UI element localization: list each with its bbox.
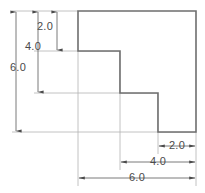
dimension-label-h4: 4.0 (150, 155, 166, 167)
dimension-label-v2: 2.0 (37, 20, 53, 32)
vertical-dimension-6: 6.0 (10, 12, 26, 131)
part-outline (78, 11, 196, 132)
horizontal-dimension-2: 2.0 (159, 139, 195, 151)
dimension-label-v4: 4.0 (25, 40, 41, 52)
horizontal-dimension-6: 6.0 (79, 171, 195, 183)
dimension-label-h6: 6.0 (129, 171, 145, 183)
engineering-drawing-canvas: 2.0 4.0 6.0 2.0 4.0 6.0 (0, 0, 205, 193)
horizontal-dimension-4: 4.0 (121, 155, 195, 167)
dimension-label-v6: 6.0 (10, 61, 26, 73)
drawing-svg: 2.0 4.0 6.0 2.0 4.0 6.0 (0, 0, 205, 193)
dimension-label-h2: 2.0 (169, 139, 185, 151)
